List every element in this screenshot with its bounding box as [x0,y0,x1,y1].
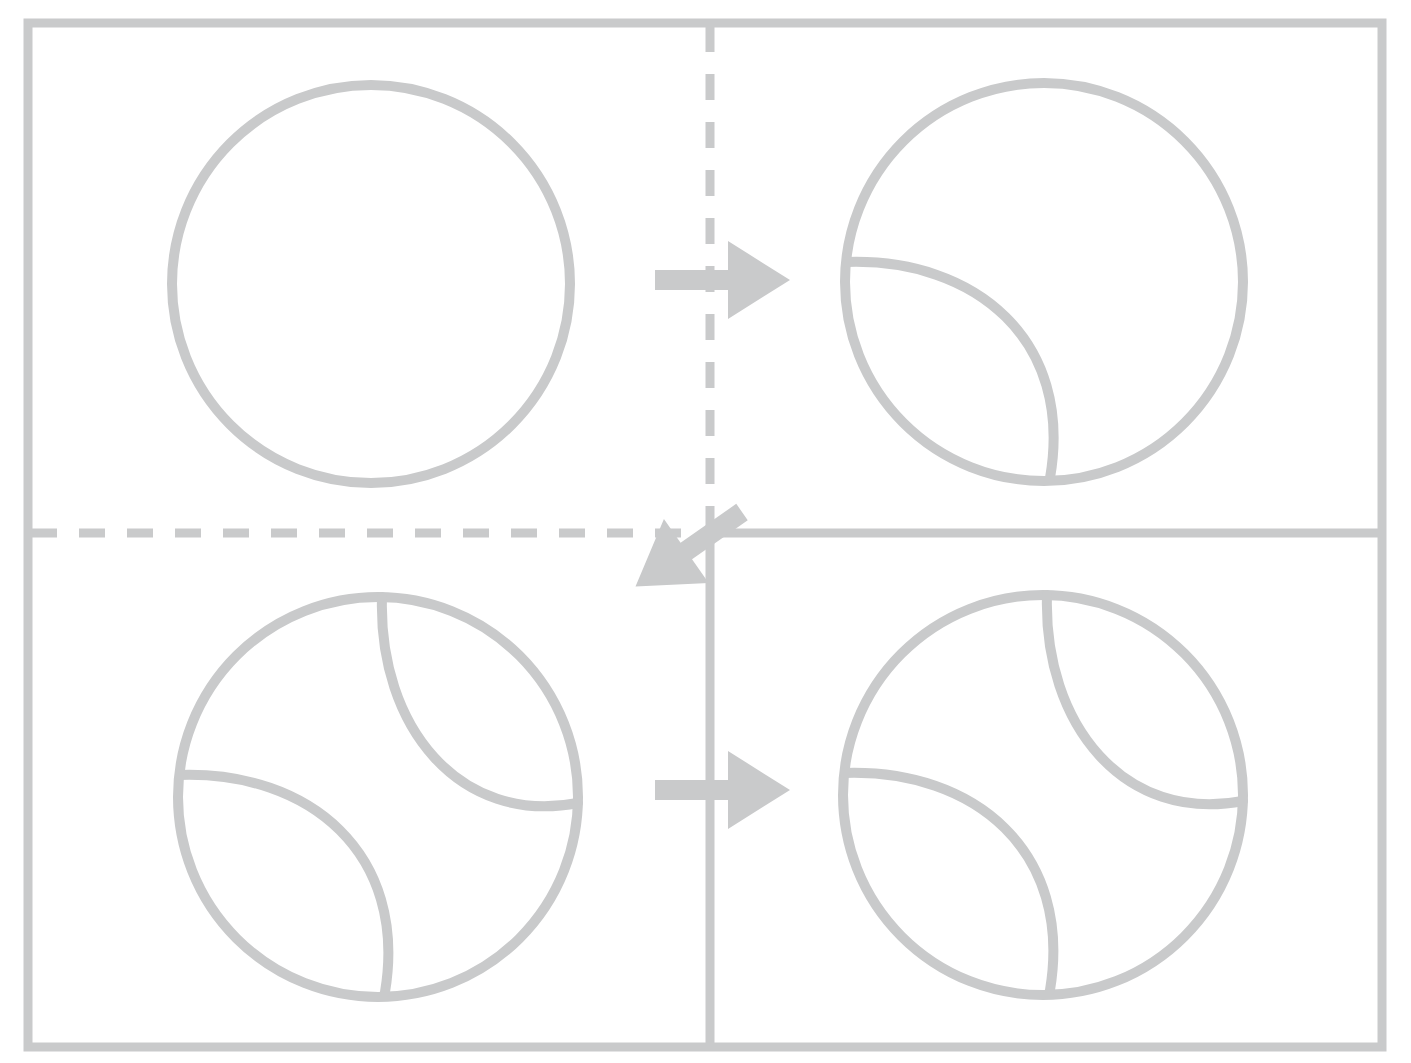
seam-lower-left [845,773,1053,990]
ball-outline-step-1 [172,85,570,483]
arrow-step1-to-step2 [655,241,790,319]
arrow-step2-to-step3 [613,480,764,618]
panel-step-3 [178,597,578,997]
seam-lower-left [847,262,1054,478]
seam-group-step-2 [847,262,1054,478]
seam-lower-left [180,775,388,992]
tutorial-canvas [0,0,1411,1063]
ball-outline-step-4 [843,595,1243,995]
panel-step-4 [843,595,1243,995]
panel-step-1 [172,85,570,483]
drawing-surface [0,0,1411,1063]
panel-step-2 [845,83,1243,481]
ball-outline-step-3 [178,597,578,997]
ball-outline-step-2 [845,83,1243,481]
arrow-step3-to-step4 [655,751,790,829]
